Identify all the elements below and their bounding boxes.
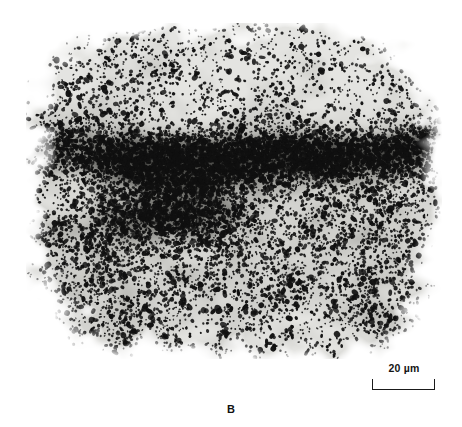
panel-letter-label: B: [0, 403, 462, 415]
autoradiograph-micrograph: [26, 23, 442, 359]
micrograph-container: [26, 23, 442, 359]
figure-panel: 20 µm B: [0, 0, 462, 427]
scale-bar-bracket-icon: [372, 379, 435, 390]
scale-bar-label: 20 µm: [371, 362, 437, 374]
scale-bar: 20 µm: [371, 362, 437, 392]
